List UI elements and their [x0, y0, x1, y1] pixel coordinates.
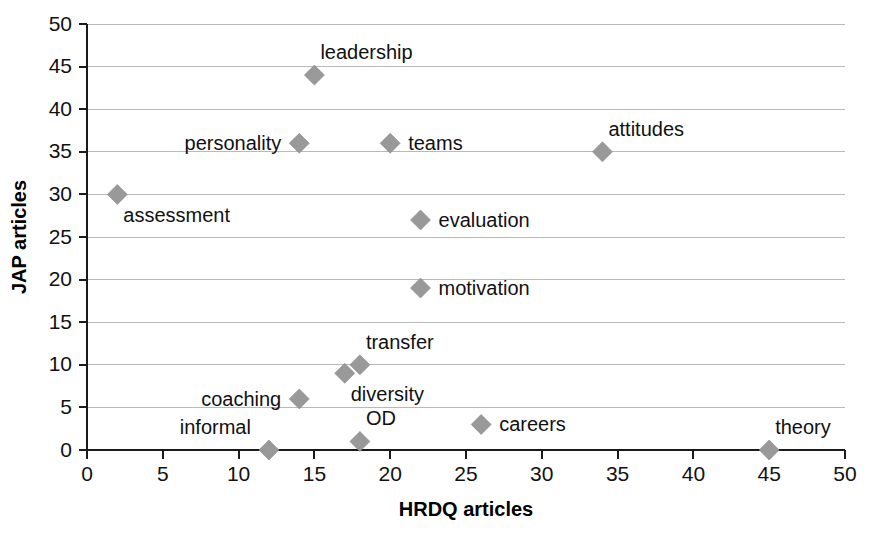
- scatter-plot-figure: 05101520253035404550 0510152025303540455…: [0, 0, 874, 534]
- point-label-leadership: leadership: [320, 41, 412, 63]
- x-tick-label-25: 25: [454, 462, 477, 485]
- y-tick-label-30: 30: [49, 182, 72, 205]
- y-tick-label-45: 45: [49, 54, 72, 77]
- point-label-diversity: diversity: [351, 383, 424, 405]
- x-tick-label-0: 0: [81, 462, 93, 485]
- y-tick-label-40: 40: [49, 97, 72, 120]
- point-label-motivation: motivation: [439, 277, 530, 299]
- point-label-coaching: coaching: [201, 388, 281, 410]
- point-label-od: OD: [366, 407, 396, 429]
- point-label-transfer: transfer: [366, 331, 434, 353]
- x-tick-label-50: 50: [833, 462, 856, 485]
- x-tick-label-30: 30: [530, 462, 553, 485]
- y-axis-title: JAP articles: [8, 180, 30, 294]
- x-tick-label-5: 5: [157, 462, 169, 485]
- x-axis-title: HRDQ articles: [399, 498, 534, 520]
- y-tick-label-15: 15: [49, 310, 72, 333]
- x-tick-label-35: 35: [606, 462, 629, 485]
- y-tick-label-5: 5: [60, 395, 72, 418]
- y-tick-label-0: 0: [60, 438, 72, 461]
- point-label-teams: teams: [408, 132, 462, 154]
- x-tick-label-15: 15: [303, 462, 326, 485]
- point-label-assessment: assessment: [123, 204, 230, 226]
- x-tick-label-45: 45: [758, 462, 781, 485]
- point-label-informal: informal: [180, 416, 251, 438]
- y-tick-label-25: 25: [49, 225, 72, 248]
- point-label-attitudes: attitudes: [608, 118, 684, 140]
- point-label-careers: careers: [499, 413, 566, 435]
- x-tick-label-10: 10: [227, 462, 250, 485]
- y-tick-label-20: 20: [49, 267, 72, 290]
- scatter-plot-canvas: 05101520253035404550 0510152025303540455…: [0, 0, 874, 534]
- y-tick-label-35: 35: [49, 139, 72, 162]
- x-tick-label-40: 40: [682, 462, 705, 485]
- x-tick-label-20: 20: [379, 462, 402, 485]
- y-tick-label-50: 50: [49, 12, 72, 35]
- point-label-personality: personality: [185, 132, 282, 154]
- chart-background: [0, 0, 874, 534]
- y-tick-label-10: 10: [49, 352, 72, 375]
- point-label-evaluation: evaluation: [439, 209, 530, 231]
- point-label-theory: theory: [775, 416, 831, 438]
